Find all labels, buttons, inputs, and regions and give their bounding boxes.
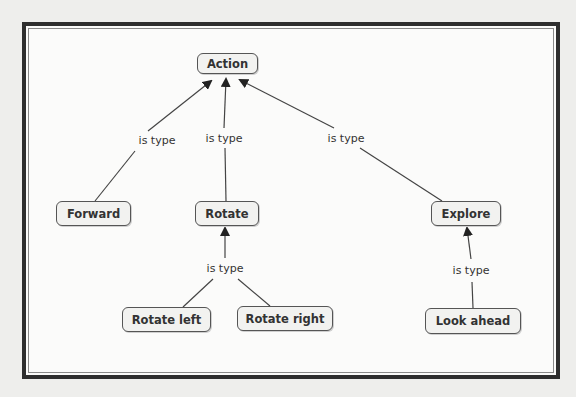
edge-rotate-left-rotate	[183, 279, 213, 307]
edge-forward-action-lower	[95, 151, 135, 201]
edges-layer	[0, 0, 576, 397]
edge-explore-action-upper	[240, 80, 334, 128]
edge-rotate-action-lower	[225, 148, 226, 201]
node-rotate-left[interactable]: Rotate left	[122, 307, 211, 332]
edge-forward-action-upper	[148, 81, 211, 131]
edge-label-explore: is type	[326, 132, 367, 145]
edge-lookahead-explore-arrow	[467, 228, 471, 259]
node-action[interactable]: Action	[197, 53, 258, 74]
node-forward[interactable]: Forward	[56, 201, 131, 226]
node-explore[interactable]: Explore	[431, 201, 501, 226]
edge-label-rotate: is type	[204, 132, 245, 145]
edge-rotate-action-upper	[224, 79, 226, 128]
edge-rotate-right-rotate	[238, 279, 270, 306]
node-look-ahead[interactable]: Look ahead	[425, 308, 521, 334]
edge-lookahead-explore-lower	[472, 282, 473, 308]
node-rotate-right[interactable]: Rotate right	[237, 306, 333, 331]
edge-label-lookahead: is type	[451, 264, 492, 277]
page-background: is type is type is type is type is type …	[0, 0, 576, 397]
edge-label-rotate-children: is type	[205, 262, 246, 275]
edge-label-forward: is type	[137, 134, 178, 147]
node-rotate[interactable]: Rotate	[195, 201, 259, 226]
edge-explore-action-lower	[360, 148, 442, 201]
